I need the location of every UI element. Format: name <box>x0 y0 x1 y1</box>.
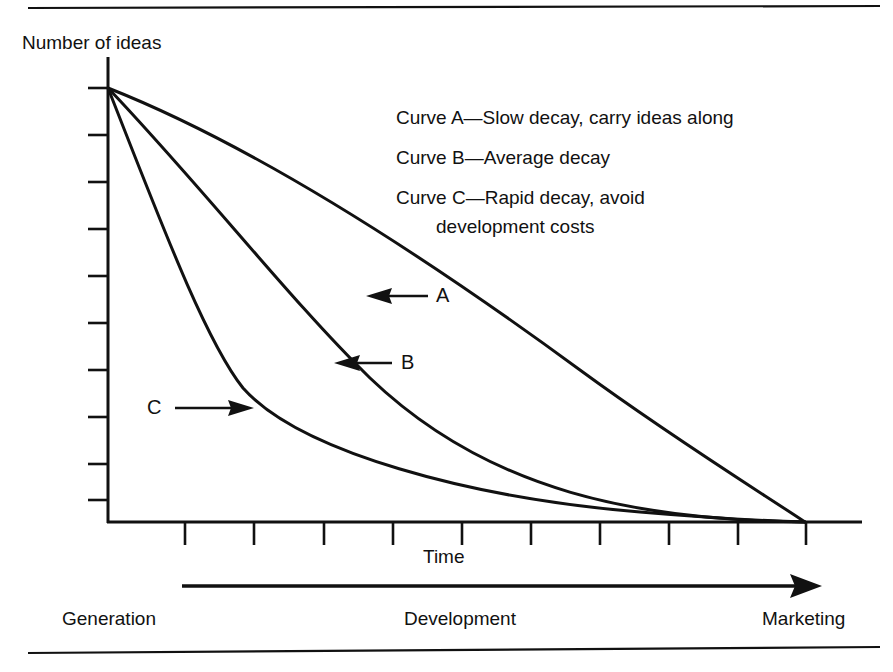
y-axis-ticks <box>88 88 108 500</box>
curve-b-arrow <box>334 355 392 371</box>
chart-canvas <box>0 0 893 672</box>
figure-container: Number of ideas Curve A—Slow decay, carr… <box>0 0 893 672</box>
stage-label-marketing: Marketing <box>762 609 845 628</box>
y-axis-title: Number of ideas <box>22 33 161 52</box>
curve-b-label: B <box>401 352 414 372</box>
legend-item-curve-c: Curve C—Rapid decay, avoid <box>396 188 645 207</box>
legend-item-curve-b: Curve B—Average decay <box>396 148 610 167</box>
curve-c-label: C <box>147 397 161 417</box>
curve-c-arrow <box>175 400 254 416</box>
stage-label-generation: Generation <box>62 609 156 628</box>
bottom-rule <box>28 647 880 653</box>
x-axis-title: Time <box>423 547 465 566</box>
legend-item-curve-a: Curve A—Slow decay, carry ideas along <box>396 108 734 127</box>
time-direction-arrow <box>182 574 822 598</box>
curve-a-label: A <box>436 285 449 305</box>
stage-label-development: Development <box>404 609 516 628</box>
curve-a-arrow <box>366 288 428 304</box>
legend-item-curve-c-continued: development costs <box>436 217 594 236</box>
top-rule <box>28 6 880 8</box>
x-axis-ticks <box>185 522 806 545</box>
